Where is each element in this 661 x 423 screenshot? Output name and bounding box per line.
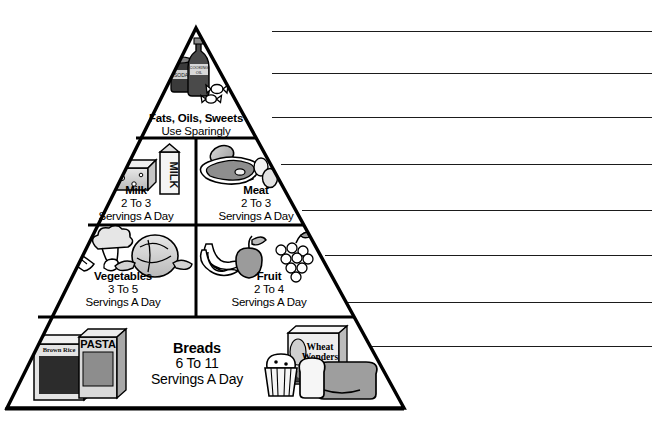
level-label-milk: Milk 2 To 3 Servings A Day [78, 184, 194, 223]
answer-line-3[interactable] [272, 117, 652, 118]
level-group-name: Vegetables [52, 270, 194, 283]
level-label-fruit: Fruit 2 To 4 Servings A Day [198, 270, 340, 309]
svg-text:Wheat: Wheat [307, 342, 335, 352]
worksheet-page: SODA COOKING OIL [0, 0, 661, 423]
level-servings-line1: 2 To 3 [78, 197, 194, 210]
level-group-name: Meat [198, 184, 314, 197]
level-label-meat: Meat 2 To 3 Servings A Day [198, 184, 314, 223]
answer-line-2[interactable] [272, 73, 652, 74]
answer-line-7[interactable] [348, 302, 652, 303]
level-servings-line2: Servings A Day [198, 296, 340, 309]
answer-line-6[interactable] [325, 255, 652, 256]
level-servings-line2: Servings A Day [122, 372, 272, 388]
level-servings-line1: 6 To 11 [122, 356, 272, 372]
svg-text:OIL: OIL [196, 70, 203, 75]
level-group-name: Milk [78, 184, 194, 197]
level-servings-line1: 2 To 3 [198, 197, 314, 210]
answer-line-5[interactable] [302, 210, 652, 211]
level-label-breads: Breads 6 To 11 Servings A Day [122, 340, 272, 388]
level-label-vegetables: Vegetables 3 To 5 Servings A Day [52, 270, 194, 309]
level-label-fats-oils-sweets: Fats, Oils, Sweets Use Sparingly [118, 112, 274, 138]
answer-line-1[interactable] [272, 31, 652, 32]
pasta-box-icon: PASTA [79, 329, 126, 398]
svg-text:SODA: SODA [174, 72, 189, 78]
bread-loaf-icon [299, 358, 377, 399]
steak-icon [200, 157, 258, 184]
answer-line-4[interactable] [281, 164, 652, 165]
level-servings-line2: Servings A Day [52, 296, 194, 309]
level-group-name: Breads [122, 340, 272, 356]
svg-text:PASTA: PASTA [80, 338, 116, 350]
level-group-name: Fats, Oils, Sweets [118, 112, 274, 125]
level-servings-line2: Servings A Day [78, 210, 194, 223]
level-servings-line1: 3 To 5 [52, 283, 194, 296]
answer-line-8[interactable] [372, 346, 652, 347]
level-servings-line1: 2 To 4 [198, 283, 340, 296]
level-group-name: Fruit [198, 270, 340, 283]
svg-text:Brown Rice: Brown Rice [43, 346, 76, 353]
level-servings-line2: Servings A Day [198, 210, 314, 223]
level-servings-line1: Use Sparingly [118, 125, 274, 138]
